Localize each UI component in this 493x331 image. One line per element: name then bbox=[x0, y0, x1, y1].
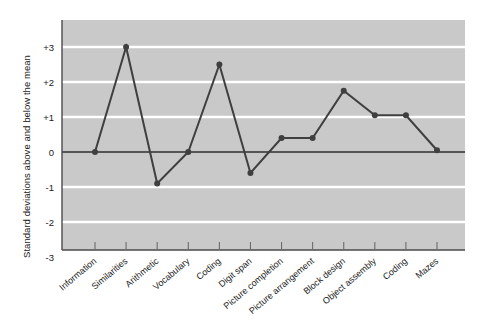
y-tick-label: +3 bbox=[43, 42, 54, 53]
data-point-marker bbox=[185, 149, 191, 155]
data-point-marker bbox=[341, 88, 347, 94]
data-point-marker bbox=[92, 149, 98, 155]
data-point-marker bbox=[247, 170, 253, 176]
data-point-marker bbox=[216, 62, 222, 68]
y-axis-title: Standard deviations above and below the … bbox=[21, 55, 32, 258]
data-point-marker bbox=[123, 44, 129, 50]
y-tick-label: -3 bbox=[46, 252, 54, 263]
data-point-marker bbox=[434, 147, 440, 153]
subtest-profile-chart: +3+2+10-1-2-3 InformationSimilaritiesAri… bbox=[0, 0, 493, 331]
data-point-marker bbox=[154, 181, 160, 187]
data-point-marker bbox=[372, 112, 378, 118]
data-point-marker bbox=[310, 135, 316, 141]
data-point-marker bbox=[403, 112, 409, 118]
y-tick-label: 0 bbox=[49, 147, 54, 158]
plot-area-background bbox=[62, 20, 465, 250]
y-tick-label: +2 bbox=[43, 77, 54, 88]
y-tick-label: -2 bbox=[46, 217, 54, 228]
chart-container: +3+2+10-1-2-3 InformationSimilaritiesAri… bbox=[0, 0, 493, 331]
plot-background-rect bbox=[62, 20, 465, 250]
y-tick-label: -1 bbox=[46, 182, 54, 193]
y-tick-label: +1 bbox=[43, 112, 54, 123]
data-point-marker bbox=[279, 135, 285, 141]
